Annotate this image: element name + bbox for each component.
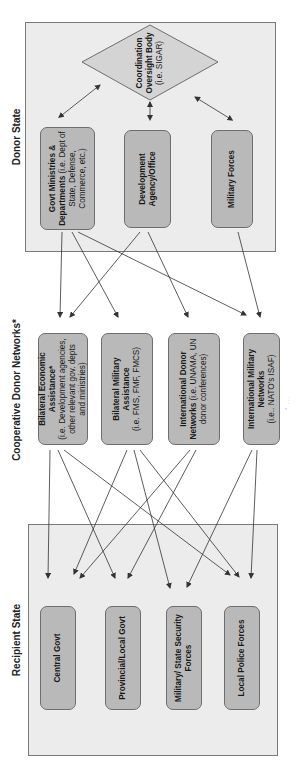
- node-title: Provincial/Local Govt: [118, 616, 128, 700]
- node-title: Bilateral Military Assistance: [112, 357, 131, 420]
- node-bilateral-military: Bilateral Military Assistance(i.e. FMS, …: [101, 333, 153, 445]
- node-detail: (i.e.. NATO's ISAF): [267, 354, 276, 423]
- node-central-govt: Central Govt: [40, 606, 76, 710]
- node-title: Bilateral Economic Assistance*: [38, 352, 57, 426]
- oversight-title: Coordination Oversight Body: [135, 33, 154, 94]
- node-detail: (i.e. Development agencies, other releva…: [58, 338, 87, 440]
- node-local-police: Local Police Forces: [224, 606, 260, 710]
- node-govt-ministries: Govt Ministries & Departments (i.e. Dept…: [40, 127, 95, 230]
- node-military-state-security: Military/ State Security Forces: [166, 606, 202, 710]
- diagram-canvas: Recipient State Cooperative Donor Networ…: [0, 0, 297, 770]
- node-bilateral-economic: Bilateral Economic Assistance*(i.e. Deve…: [38, 333, 88, 445]
- node-international-military: International Military Networks(i.e.. NA…: [243, 333, 280, 445]
- node-title: Central Govt: [53, 633, 63, 682]
- oversight-label: Coordination Oversight Body (i.e. SIGAR): [135, 28, 165, 98]
- node-detail: (i.e. FMS, FMF, FMCS): [132, 347, 141, 431]
- node-title: Development Agency/Office: [138, 134, 158, 224]
- footnote: * ...: [284, 396, 290, 410]
- node-title: Local Police Forces: [237, 620, 247, 697]
- node-international-donor: International Donor Networks (i.e. UNAMA…: [168, 333, 220, 445]
- node-title: Military Forces: [227, 150, 237, 208]
- oversight-detail: (i.e. SIGAR): [155, 41, 164, 85]
- node-title: International Military Networks: [247, 349, 266, 429]
- node-title: Military/ State Security Forces: [174, 610, 194, 706]
- node-provincial-local-govt: Provincial/Local Govt: [105, 606, 141, 710]
- node-development-agency: Development Agency/Office: [124, 130, 171, 228]
- node-military-forces: Military Forces: [211, 130, 253, 228]
